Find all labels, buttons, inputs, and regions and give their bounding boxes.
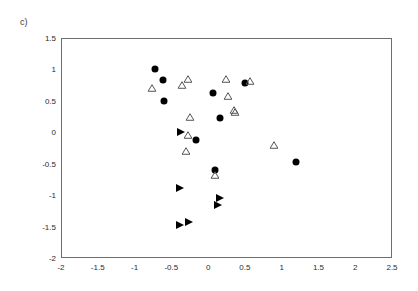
y-tick-label: -1	[34, 191, 56, 200]
x-tick-label: -2	[57, 263, 64, 272]
data-point-filled-circle	[152, 65, 159, 72]
data-point-open-triangle-up	[148, 84, 157, 92]
data-point-open-triangle-up	[184, 131, 193, 139]
data-point-open-triangle-up	[181, 147, 190, 155]
data-point-open-triangle-up	[210, 171, 219, 179]
y-tick-label: 1	[34, 65, 56, 74]
plot-data-area	[61, 38, 392, 258]
x-tick-label: 2.5	[386, 263, 397, 272]
data-point-filled-circle	[210, 90, 217, 97]
data-point-filled-triangle-right	[176, 184, 184, 192]
data-point-filled-circle	[292, 159, 299, 166]
x-tick-label: 2	[353, 263, 357, 272]
data-point-filled-triangle-right	[177, 128, 185, 136]
figure-container: c) 1.510.50-0.5-1-1.5-2 -2-1.5-1-0.500.5…	[0, 0, 418, 291]
data-point-open-triangle-up	[223, 92, 232, 100]
data-point-open-triangle-up	[184, 75, 193, 83]
data-point-open-triangle-up	[270, 141, 279, 149]
x-tick-label: -0.5	[164, 263, 178, 272]
data-point-filled-triangle-right	[176, 221, 184, 229]
x-tick-label: -1	[131, 263, 138, 272]
data-point-open-triangle-up	[245, 77, 254, 85]
panel-label: c)	[20, 17, 28, 27]
y-tick-label: 0	[34, 128, 56, 137]
x-tick-label: 0	[206, 263, 210, 272]
data-point-open-triangle-up	[221, 75, 230, 83]
data-point-filled-triangle-right	[185, 218, 193, 226]
x-tick-label: 1.5	[313, 263, 324, 272]
y-tick-label: 0.5	[34, 96, 56, 105]
y-tick-label: -0.5	[34, 159, 56, 168]
x-tick-label: -1.5	[91, 263, 105, 272]
x-tick-label: 1	[279, 263, 283, 272]
y-tick-label: 1.5	[34, 34, 56, 43]
x-tick-label: 0.5	[239, 263, 250, 272]
y-tick-label: -1.5	[34, 222, 56, 231]
data-point-filled-circle	[192, 137, 199, 144]
y-tick-label: -2	[34, 254, 56, 263]
data-point-open-triangle-up	[185, 113, 194, 121]
data-point-filled-circle	[160, 98, 167, 105]
data-point-filled-triangle-right	[214, 201, 222, 209]
data-point-filled-circle	[160, 77, 167, 84]
data-point-open-triangle-up	[231, 108, 240, 116]
data-point-filled-circle	[216, 114, 223, 121]
